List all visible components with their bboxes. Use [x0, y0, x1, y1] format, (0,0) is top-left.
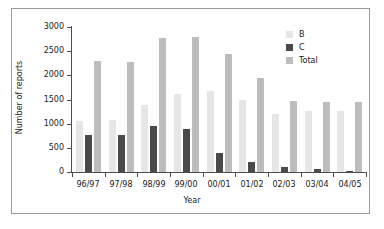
chart-legend: BCTotal — [286, 28, 318, 67]
bar-b-02-03 — [272, 114, 279, 172]
x-tick — [333, 173, 334, 177]
x-tick — [366, 173, 367, 177]
y-tick-label: 1500 — [18, 96, 64, 104]
x-tick — [170, 173, 171, 177]
bar-c-97-98 — [118, 135, 125, 172]
bar-c-00-01 — [216, 153, 223, 172]
bar-c-01-02 — [248, 162, 255, 172]
bar-b-96-97 — [76, 121, 83, 172]
plot-area — [72, 27, 366, 172]
x-tick-label: 01/02 — [235, 180, 269, 189]
x-tick — [301, 173, 302, 177]
x-tick — [235, 173, 236, 177]
bar-b-98-99 — [141, 105, 148, 172]
x-tick — [268, 173, 269, 177]
bar-b-01-02 — [239, 100, 246, 172]
y-tick-label: 500 — [18, 144, 64, 152]
legend-label: Total — [299, 56, 318, 65]
x-tick-label: 97/98 — [104, 180, 138, 189]
x-axis-line — [71, 172, 367, 173]
legend-item-c: C — [286, 41, 318, 54]
bar-total-98-99 — [159, 38, 166, 172]
x-tick — [72, 173, 73, 177]
y-tick-label: 1000 — [18, 120, 64, 128]
bar-total-03-04 — [323, 102, 330, 172]
legend-swatch-icon — [286, 57, 293, 64]
x-tick — [203, 173, 204, 177]
legend-item-total: Total — [286, 54, 318, 67]
x-axis-label: Year — [0, 196, 384, 205]
bar-c-02-03 — [281, 167, 288, 172]
bar-c-98-99 — [150, 126, 157, 172]
bar-total-04-05 — [355, 102, 362, 172]
y-tick-label: 2500 — [18, 47, 64, 55]
bar-c-04-05 — [346, 171, 353, 172]
x-tick — [105, 173, 106, 177]
bar-total-97-98 — [127, 62, 134, 172]
legend-item-b: B — [286, 28, 318, 41]
bar-total-02-03 — [290, 101, 297, 172]
x-tick-label: 96/97 — [71, 180, 105, 189]
bar-b-00-01 — [207, 91, 214, 172]
x-tick-label: 04/05 — [333, 180, 367, 189]
bar-b-99-00 — [174, 94, 181, 172]
bar-c-99-00 — [183, 129, 190, 172]
x-tick — [137, 173, 138, 177]
legend-swatch-icon — [286, 44, 293, 51]
legend-label: C — [299, 43, 305, 52]
bar-c-96-97 — [85, 135, 92, 172]
y-tick-label: 2000 — [18, 71, 64, 79]
y-axis-label: Number of reports — [15, 43, 24, 153]
bar-b-03-04 — [305, 111, 312, 172]
legend-label: B — [299, 30, 305, 39]
bar-total-01-02 — [257, 78, 264, 172]
bar-b-97-98 — [109, 120, 116, 172]
bar-total-99-00 — [192, 37, 199, 172]
x-tick-label: 98/99 — [137, 180, 171, 189]
x-tick-label: 99/00 — [169, 180, 203, 189]
x-tick-label: 02/03 — [267, 180, 301, 189]
x-tick-label: 00/01 — [202, 180, 236, 189]
bar-b-04-05 — [337, 111, 344, 172]
bar-total-00-01 — [225, 54, 232, 172]
y-tick-label: 0 — [18, 168, 64, 176]
chart-figure: 050010001500200025003000 96/9797/9898/99… — [0, 0, 384, 229]
x-tick-label: 03/04 — [300, 180, 334, 189]
bar-total-96-97 — [94, 61, 101, 172]
bar-c-03-04 — [314, 169, 321, 172]
legend-swatch-icon — [286, 31, 293, 38]
y-tick-label: 3000 — [18, 23, 64, 31]
